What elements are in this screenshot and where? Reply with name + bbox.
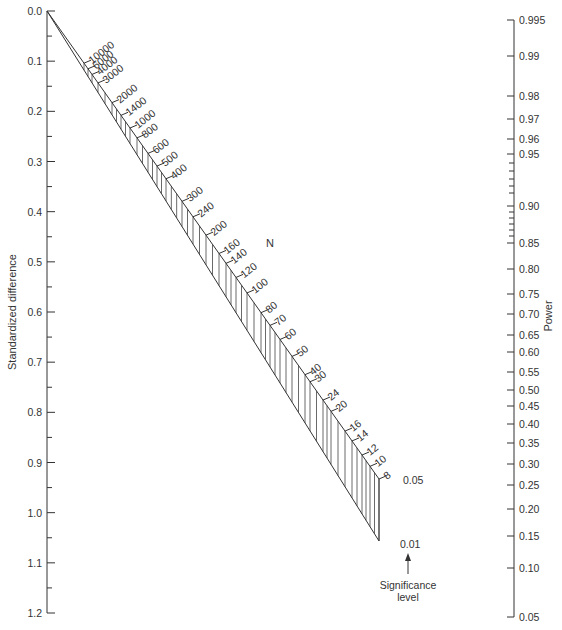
- right-tick-label: 0.97: [519, 113, 540, 125]
- right-tick-label: 0.75: [519, 288, 540, 300]
- right-tick-label: 0.95: [519, 148, 540, 160]
- left-tick-label: 0.7: [27, 356, 42, 368]
- right-tick-label: 0.30: [519, 458, 540, 470]
- left-axis-title: Standardized difference: [6, 254, 18, 370]
- right-tick-label: 0.995: [519, 14, 545, 26]
- n-tick-label: 70: [272, 311, 289, 328]
- sample-size-labels: 1000060004000300020001400100080060050040…: [84, 38, 393, 481]
- right-tick-label: 0.10: [519, 562, 540, 574]
- left-tick-label: 0.8: [27, 406, 42, 418]
- nomogram: 0.00.10.20.30.40.50.60.70.80.91.01.11.2 …: [0, 0, 562, 630]
- n-tick-label: 120: [238, 260, 259, 280]
- right-axis-title: Power: [542, 300, 554, 332]
- power-axis: 0.9950.990.980.970.960.950.900.850.800.7…: [507, 14, 545, 623]
- right-tick-label: 0.70: [519, 308, 540, 320]
- right-tick-label: 0.99: [519, 50, 540, 62]
- right-tick-label: 0.40: [519, 418, 540, 430]
- right-tick-label: 0.55: [519, 366, 540, 378]
- left-tick-label: 1.2: [27, 607, 42, 619]
- right-tick-label: 0.85: [519, 237, 540, 249]
- n-tick-label: 240: [195, 199, 216, 219]
- sample-size-band: [47, 11, 379, 541]
- band-upper-edge: [47, 11, 379, 479]
- left-tick-label: 0.3: [27, 156, 42, 168]
- right-tick-label: 0.98: [519, 90, 540, 102]
- left-tick-label: 0.9: [27, 457, 42, 469]
- right-tick-label: 0.35: [519, 437, 540, 449]
- n-scale-title: N: [266, 237, 274, 249]
- significance-005-label: 0.05: [403, 474, 424, 486]
- right-tick-label: 0.96: [519, 133, 540, 145]
- arrow-up-icon: [405, 553, 411, 574]
- n-tick-label: 100: [249, 275, 270, 295]
- n-tick-label: 80: [263, 298, 280, 315]
- right-tick-label: 0.25: [519, 479, 540, 491]
- right-tick-label: 0.90: [519, 200, 540, 212]
- n-tick-label: 200: [208, 217, 229, 237]
- right-tick-label: 0.50: [519, 384, 540, 396]
- right-tick-label: 0.15: [519, 530, 540, 542]
- right-tick-label: 0.80: [519, 263, 540, 275]
- right-tick-label: 0.60: [519, 346, 540, 358]
- n-tick-label: 50: [294, 342, 311, 359]
- significance-label-line1: Significance: [380, 579, 437, 591]
- right-tick-label: 0.65: [519, 329, 540, 341]
- standardized-difference-axis: 0.00.10.20.30.40.50.60.70.80.91.01.11.2: [27, 5, 55, 619]
- n-tick-label: 8: [381, 468, 393, 481]
- left-tick-label: 0.2: [27, 105, 42, 117]
- n-tick-label: 300: [184, 184, 205, 204]
- left-tick-label: 1.1: [27, 557, 42, 569]
- n-tick-label: 60: [282, 325, 299, 342]
- left-tick-label: 0.4: [27, 206, 42, 218]
- right-tick-label: 0.20: [519, 503, 540, 515]
- left-tick-label: 1.0: [27, 507, 42, 519]
- left-tick-label: 0.0: [27, 5, 42, 17]
- right-tick-label: 0.05: [519, 611, 540, 623]
- right-tick-label: 0.45: [519, 400, 540, 412]
- left-tick-label: 0.6: [27, 306, 42, 318]
- band-lower-edge: [47, 11, 379, 541]
- left-tick-label: 0.5: [27, 256, 42, 268]
- significance-label-line2: level: [397, 591, 419, 603]
- left-tick-label: 0.1: [27, 55, 42, 67]
- significance-001-label: 0.01: [400, 538, 421, 550]
